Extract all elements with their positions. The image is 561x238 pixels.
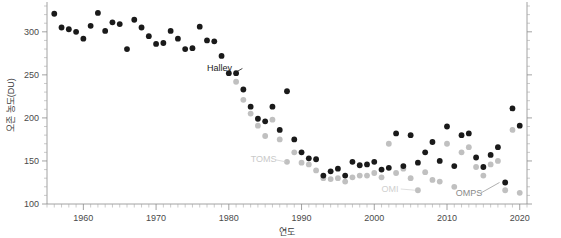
- data-point: [350, 159, 356, 165]
- data-point: [480, 164, 486, 170]
- y-tick-label: 250: [24, 70, 39, 80]
- data-point: [139, 25, 145, 31]
- data-point: [117, 21, 123, 27]
- data-point: [255, 116, 261, 122]
- data-point: [313, 168, 319, 174]
- data-point: [248, 111, 254, 117]
- data-point: [88, 23, 94, 29]
- data-point: [422, 149, 428, 155]
- data-point: [495, 158, 501, 164]
- data-point: [379, 174, 385, 180]
- data-point: [306, 162, 312, 168]
- data-point: [371, 159, 377, 165]
- data-point: [299, 149, 305, 155]
- data-point: [320, 173, 326, 179]
- data-point: [342, 173, 348, 179]
- data-point: [313, 156, 319, 162]
- data-point: [124, 46, 130, 52]
- y-axis-title: 오존 농도(DU): [6, 78, 16, 132]
- annotation-label: Halley: [207, 63, 233, 73]
- data-point: [364, 162, 370, 168]
- data-point: [451, 163, 457, 169]
- data-point: [240, 87, 246, 93]
- data-point: [473, 164, 479, 170]
- data-point: [444, 124, 450, 130]
- ozone-scatter-chart: 100150200250300 196019701980199020002010…: [0, 0, 561, 238]
- data-point: [415, 187, 421, 193]
- data-point: [473, 155, 479, 161]
- data-point: [277, 137, 283, 143]
- data-point: [59, 25, 65, 31]
- data-point: [357, 173, 363, 179]
- data-point: [197, 24, 203, 30]
- x-axis-title-text: 연도: [279, 227, 295, 237]
- data-point: [430, 139, 436, 145]
- x-tick-label: 1960: [73, 213, 93, 223]
- y-tick-label: 100: [24, 199, 39, 209]
- data-point: [66, 26, 72, 32]
- data-point: [517, 190, 523, 196]
- data-point: [335, 175, 341, 181]
- x-tick-label: 1990: [292, 213, 312, 223]
- x-tick-label: 1980: [219, 213, 239, 223]
- data-point: [393, 131, 399, 137]
- chart-svg: 100150200250300 196019701980199020002010…: [0, 0, 561, 238]
- x-axis-title: 연도: [279, 227, 295, 237]
- data-point: [262, 118, 268, 124]
- data-point: [146, 33, 152, 39]
- data-point: [306, 155, 312, 161]
- data-point: [437, 179, 443, 185]
- data-point: [299, 160, 305, 166]
- data-point: [510, 127, 516, 133]
- data-point: [466, 144, 472, 150]
- annotation-label: OMI: [382, 184, 399, 194]
- data-point: [502, 180, 508, 186]
- data-point: [364, 173, 370, 179]
- data-point: [110, 19, 116, 25]
- data-point: [73, 29, 79, 35]
- data-point: [190, 45, 196, 51]
- data-point: [131, 17, 137, 23]
- x-tick-label: 2020: [510, 213, 530, 223]
- data-point: [277, 127, 283, 133]
- data-point: [459, 132, 465, 138]
- data-point: [95, 10, 101, 16]
- y-axis-title-text: 오존 농도(DU): [6, 78, 16, 132]
- data-point: [240, 97, 246, 103]
- data-point: [386, 141, 392, 147]
- data-point: [350, 174, 356, 180]
- data-point: [444, 141, 450, 147]
- data-point: [466, 131, 472, 137]
- data-point: [437, 158, 443, 164]
- data-point: [408, 132, 414, 138]
- data-point: [102, 28, 108, 34]
- data-point: [219, 53, 225, 59]
- data-point: [270, 117, 276, 123]
- y-tick-label: 300: [24, 27, 39, 37]
- data-point: [379, 167, 385, 173]
- data-point: [386, 165, 392, 171]
- data-point: [204, 38, 210, 44]
- data-point: [168, 28, 174, 34]
- data-point: [393, 170, 399, 176]
- data-point: [495, 144, 501, 150]
- data-point: [233, 79, 239, 85]
- data-point: [182, 46, 188, 52]
- data-point: [51, 11, 57, 17]
- data-point: [415, 160, 421, 166]
- data-point: [510, 106, 516, 112]
- x-tick-label: 2010: [437, 213, 457, 223]
- data-point: [371, 170, 377, 176]
- data-point: [502, 187, 508, 193]
- data-point: [248, 104, 254, 110]
- chart-background: [0, 0, 561, 238]
- data-point: [488, 162, 494, 168]
- data-point: [211, 38, 217, 44]
- data-point: [517, 123, 523, 129]
- annotation-label: OMPS: [456, 188, 483, 198]
- data-point: [342, 179, 348, 185]
- data-point: [153, 41, 159, 47]
- data-point: [488, 152, 494, 158]
- data-point: [175, 36, 181, 42]
- data-point: [400, 163, 406, 169]
